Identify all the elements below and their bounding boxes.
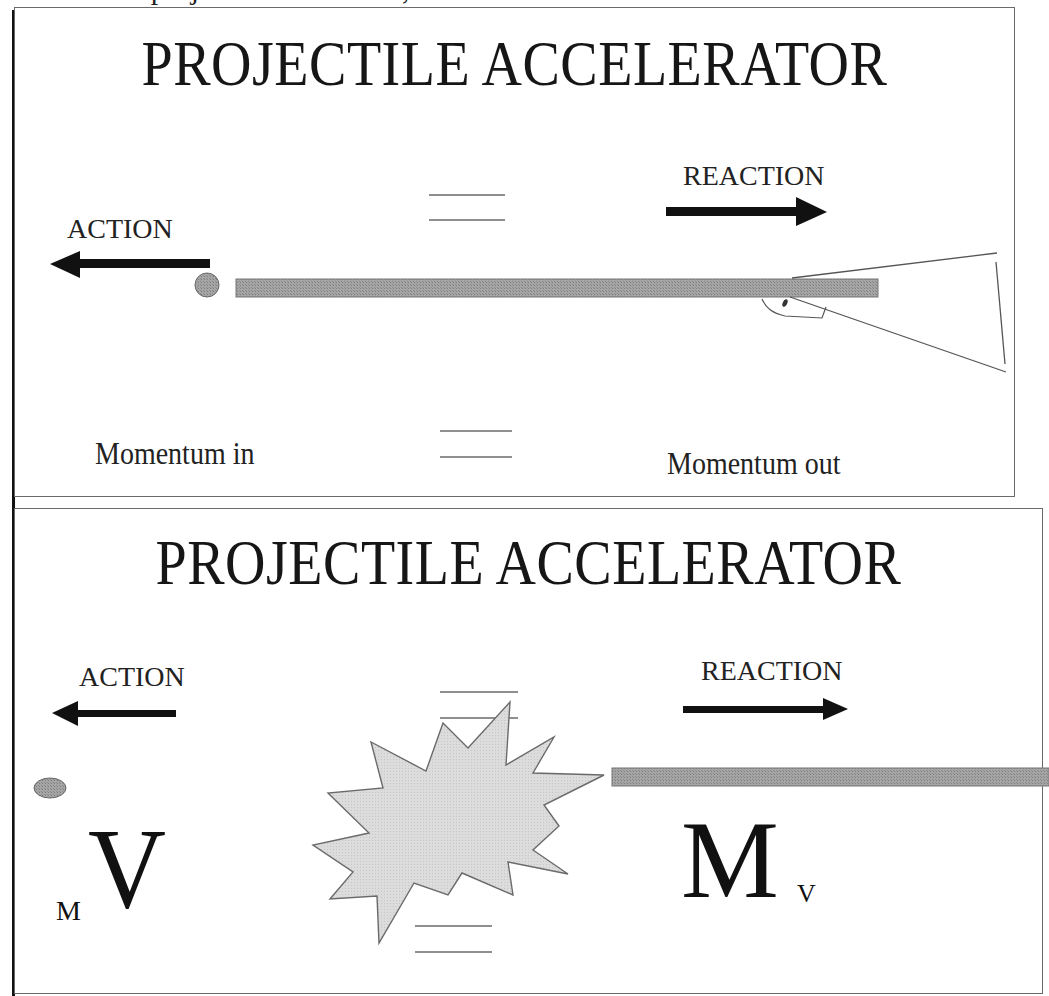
cut-off-header-text: a projectile accelerator, . bbox=[130, 0, 424, 6]
reaction-label: REACTION bbox=[683, 160, 825, 192]
panel-title: PROJECTILE ACCELERATOR bbox=[15, 26, 1014, 100]
action-label: ACTION bbox=[67, 213, 173, 245]
velocity-small-label: V bbox=[797, 881, 816, 907]
mass-small-label: M bbox=[56, 897, 81, 925]
mass-large-label: M bbox=[681, 805, 779, 915]
momentum-out-label: Momentum out bbox=[667, 446, 840, 481]
panel-boom-momentum: PROJECTILE ACCELERATOR ACTION REACTION B… bbox=[14, 508, 1043, 994]
boom-label: BOOM bbox=[387, 811, 465, 841]
reaction-label: REACTION bbox=[701, 655, 843, 687]
panel-title: PROJECTILE ACCELERATOR bbox=[15, 525, 1042, 599]
panel-momentum-in-out: PROJECTILE ACCELERATOR ACTION REACTION M… bbox=[14, 7, 1015, 497]
momentum-in-label: Momentum in bbox=[95, 436, 254, 471]
velocity-large-label: V bbox=[88, 812, 166, 925]
action-label: ACTION bbox=[79, 661, 185, 693]
